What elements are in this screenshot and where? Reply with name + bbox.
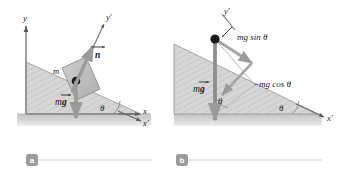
axis-label-y-a: y (22, 13, 27, 23)
center-of-mass-dot-b (210, 34, 219, 43)
component-perpendicular-label-b: −mg cos θ (253, 79, 292, 89)
svg-text:m: m (193, 84, 200, 94)
axis-label-y-prime-b: y′ (223, 6, 230, 16)
mass-label-a: m (53, 66, 59, 76)
axis-y-prime-b (222, 14, 235, 37)
angle-label-weight-b: θ (218, 96, 223, 106)
panel-tag-a: a (26, 154, 152, 166)
panel-b: y′ x′ mg sin θ −mg cos θ m g (174, 6, 333, 166)
panel-a: y x x′ y′ m n (17, 12, 152, 166)
physics-figure: y x x′ y′ m n (0, 0, 348, 181)
svg-text:g: g (61, 97, 67, 107)
angle-label-a: θ (100, 103, 105, 113)
component-parallel-vector-b (215, 39, 252, 63)
svg-text:n: n (95, 50, 100, 60)
component-parallel-label-b: mg sin θ (237, 32, 268, 42)
svg-text:g: g (199, 84, 205, 94)
svg-text:b: b (180, 156, 185, 165)
axis-label-x-a: x (142, 106, 147, 116)
svg-text:m: m (55, 97, 62, 107)
axis-label-y-prime-a: y′ (105, 12, 112, 22)
axis-label-x-prime-a: x′ (142, 118, 149, 128)
angle-label-incline-b: θ (279, 103, 284, 113)
ground-slab-b (174, 114, 322, 126)
svg-text:a: a (30, 156, 35, 165)
normal-force-label-a: n (92, 47, 105, 60)
ground-slab-a (17, 114, 151, 126)
axis-label-x-prime-b: x′ (326, 113, 333, 123)
panel-tag-b: b (176, 154, 322, 166)
